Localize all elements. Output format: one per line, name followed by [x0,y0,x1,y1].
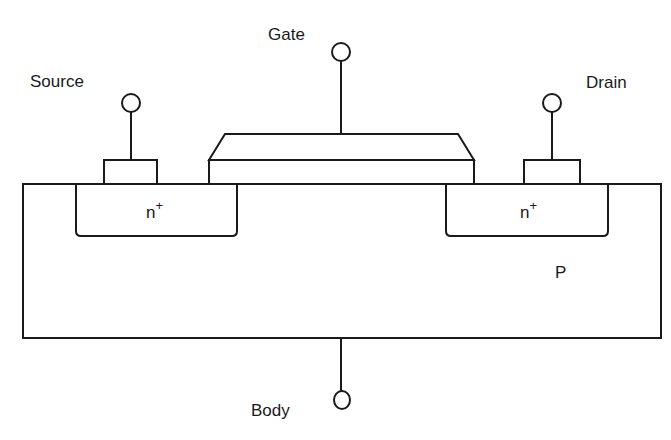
gate-electrode [209,134,474,160]
source-terminal-icon [122,94,140,112]
source-label: Source [30,72,84,91]
drain-contact [524,160,580,184]
body-terminal-icon [334,391,350,409]
drain-terminal-icon [543,94,561,112]
gate-terminal-icon [332,43,350,61]
source-contact [104,160,157,184]
substrate-label: P [555,263,566,282]
mosfet-diagram: Gate Source Drain Body n+ n+ P [0,0,671,440]
gate-label: Gate [268,25,305,44]
drain-label: Drain [586,73,627,92]
body-label: Body [251,401,290,420]
gate-oxide [209,160,474,184]
